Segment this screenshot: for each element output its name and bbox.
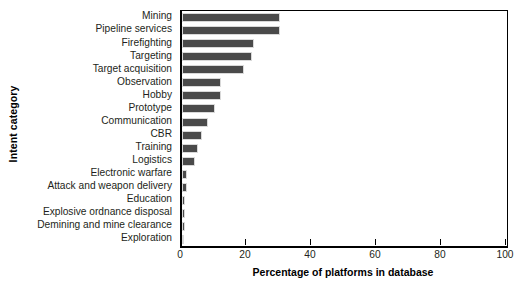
category-axis-labels: MiningPipeline servicesFirefightingTarge… [26, 10, 176, 245]
category-label: Prototype [26, 101, 176, 114]
bar [182, 78, 221, 87]
x-tick-label: 80 [434, 249, 445, 260]
x-tick-mark [310, 239, 311, 245]
x-tick-label: 20 [239, 249, 250, 260]
bar [182, 104, 215, 113]
x-tick-label: 0 [177, 249, 183, 260]
bar-row [182, 89, 507, 102]
bar-row [182, 63, 507, 76]
x-tick-mark [440, 239, 441, 245]
x-tick-mark [505, 239, 506, 245]
category-label: Communication [26, 115, 176, 128]
y-axis-title: Intent category [0, 0, 26, 248]
bar [182, 235, 184, 244]
bar [182, 196, 185, 205]
bar-row [182, 76, 507, 89]
x-tick-label: 40 [304, 249, 315, 260]
category-label: Education [26, 193, 176, 206]
category-label: Mining [26, 10, 176, 23]
bar-row [182, 181, 507, 194]
y-axis-title-text: Intent category [7, 86, 19, 163]
category-label: Pipeline services [26, 23, 176, 36]
bar-row [182, 168, 507, 181]
bar-row [182, 129, 507, 142]
bar [182, 118, 208, 127]
category-label: CBR [26, 128, 176, 141]
category-label: Explosive ordnance disposal [26, 206, 176, 219]
bar [182, 26, 280, 35]
bars-container [182, 11, 507, 246]
bar [182, 65, 244, 74]
category-label: Electronic warfare [26, 167, 176, 180]
category-label: Target acquisition [26, 62, 176, 75]
bar [182, 131, 202, 140]
bar-row [182, 220, 507, 233]
bar [182, 170, 187, 179]
x-tick-label: 100 [497, 249, 514, 260]
bar [182, 209, 185, 218]
category-label: Hobby [26, 88, 176, 101]
x-tick-mark [245, 239, 246, 245]
category-label: Firefighting [26, 36, 176, 49]
bar-row [182, 37, 507, 50]
bar [182, 144, 198, 153]
bar-row [182, 11, 507, 24]
x-axis-tick-labels: 020406080100 [180, 249, 506, 263]
x-tick-mark [375, 239, 376, 245]
plot-area [180, 10, 508, 248]
bar-row [182, 207, 507, 220]
bar-row [182, 102, 507, 115]
bar [182, 222, 185, 231]
bar [182, 183, 187, 192]
x-axis-title: Percentage of platforms in database [180, 266, 506, 278]
bar [182, 39, 254, 48]
x-tick-mark [180, 239, 181, 245]
category-label: Targeting [26, 49, 176, 62]
category-label: Attack and weapon delivery [26, 180, 176, 193]
category-label: Exploration [26, 232, 176, 245]
bar-row [182, 142, 507, 155]
bar-row [182, 50, 507, 63]
bar [182, 157, 195, 166]
bar [182, 91, 221, 100]
bar [182, 52, 252, 61]
bar [182, 13, 280, 22]
category-label: Logistics [26, 154, 176, 167]
bar-chart: Intent category MiningPipeline servicesF… [0, 0, 524, 288]
bar-row [182, 155, 507, 168]
bar-row [182, 194, 507, 207]
category-label: Demining and mine clearance [26, 219, 176, 232]
bar-row [182, 116, 507, 129]
x-tick-label: 60 [369, 249, 380, 260]
bar-row [182, 24, 507, 37]
category-label: Training [26, 141, 176, 154]
category-label: Observation [26, 75, 176, 88]
